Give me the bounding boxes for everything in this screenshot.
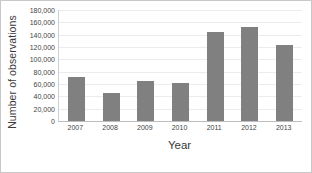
- x-axis-tick: 2008: [93, 124, 128, 131]
- y-axis-tick: 60,000: [34, 81, 55, 88]
- x-axis-tick: 2007: [58, 124, 93, 131]
- bar-series: [59, 10, 302, 121]
- y-axis-tick: 20,000: [34, 105, 55, 112]
- bar-slot: [233, 10, 268, 121]
- bar-2012[interactable]: [241, 27, 258, 121]
- y-axis-title-label: Number of observations: [6, 15, 18, 129]
- x-axis-tick-labels: 2007200820092010201120122013: [58, 124, 301, 131]
- x-axis-tick: 2010: [162, 124, 197, 131]
- y-axis-tick: 160,000: [30, 19, 55, 26]
- x-axis-tick: 2009: [127, 124, 162, 131]
- bar-slot: [59, 10, 94, 121]
- y-axis-tick: 120,000: [30, 44, 55, 51]
- bar-2010[interactable]: [172, 83, 189, 121]
- bar-2008[interactable]: [103, 93, 120, 121]
- y-axis-tick-labels: 180,000160,000140,000120,000100,00080,00…: [19, 10, 57, 121]
- y-axis-tick: 140,000: [30, 31, 55, 38]
- x-axis-tick: 2013: [266, 124, 301, 131]
- x-axis-tick: 2012: [232, 124, 267, 131]
- y-axis-tick: 180,000: [30, 7, 55, 14]
- bar-slot: [94, 10, 129, 121]
- y-axis-tick: 100,000: [30, 56, 55, 63]
- y-axis-tick: 40,000: [34, 93, 55, 100]
- x-axis-tick: 2011: [197, 124, 232, 131]
- bar-slot: [198, 10, 233, 121]
- plot-area: [58, 10, 302, 122]
- bar-2009[interactable]: [137, 81, 154, 121]
- bar-2013[interactable]: [276, 45, 293, 121]
- bar-slot: [267, 10, 302, 121]
- bar-2007[interactable]: [68, 77, 85, 121]
- y-axis-tick: 0: [51, 118, 55, 125]
- bar-2011[interactable]: [207, 32, 224, 121]
- bar-chart: Number of observations 180,000160,000140…: [0, 0, 312, 173]
- bar-slot: [163, 10, 198, 121]
- y-axis-tick: 80,000: [34, 68, 55, 75]
- x-axis-title: Year: [58, 139, 301, 151]
- bar-slot: [128, 10, 163, 121]
